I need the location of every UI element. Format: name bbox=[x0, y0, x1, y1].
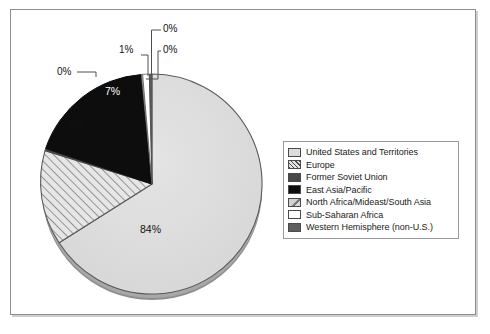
legend-item-sub-saharan-africa: Sub-Saharan Africa bbox=[288, 209, 453, 221]
legend-item-western-hemisphere: Western Hemisphere (non-U.S.) bbox=[288, 221, 453, 233]
east-asia-pacific-swatch-icon bbox=[288, 185, 301, 194]
leader-line-sub-saharan-africa bbox=[141, 55, 148, 76]
usa-swatch-icon bbox=[288, 148, 301, 157]
legend-label-east-asia-pacific: East Asia/Pacific bbox=[306, 185, 372, 195]
pie-label-sub-saharan-africa: 1% bbox=[119, 44, 133, 55]
pie-slices bbox=[41, 74, 263, 294]
leader-line-former-soviet-union bbox=[77, 72, 96, 77]
legend-label-former-soviet-union: Former Soviet Union bbox=[306, 172, 388, 182]
legend-item-east-asia-pacific: East Asia/Pacific bbox=[288, 184, 453, 196]
legend-label-sub-saharan-africa: Sub-Saharan Africa bbox=[306, 210, 383, 220]
legend-label-europe: Europe bbox=[306, 160, 335, 170]
leader-line-western-hemisphere bbox=[152, 30, 162, 76]
sub-saharan-africa-swatch-icon bbox=[288, 210, 301, 219]
pie-label-western-hemisphere: 0% bbox=[163, 23, 177, 34]
former-soviet-union-swatch-icon bbox=[288, 173, 301, 182]
legend-label-united-states: United States and Territories bbox=[306, 147, 418, 157]
legend-item-former-soviet-union: Former Soviet Union bbox=[288, 171, 453, 183]
europe-swatch-icon bbox=[288, 160, 301, 169]
legend-label-north-africa: North Africa/Mideast/South Asia bbox=[306, 197, 431, 207]
pie-label-united-states: 84% bbox=[140, 223, 161, 235]
legend-label-western-hemisphere: Western Hemisphere (non-U.S.) bbox=[306, 222, 433, 232]
pie-label-north-africa: 0% bbox=[163, 44, 177, 55]
legend-item-north-africa: North Africa/Mideast/South Asia bbox=[288, 196, 453, 208]
pie-label-east-asia-pacific: 7% bbox=[105, 85, 120, 97]
chart-legend: United States and Territories Europe For… bbox=[283, 141, 459, 239]
legend-item-united-states: United States and Territories bbox=[288, 146, 453, 158]
pie-label-europe: 8% bbox=[68, 119, 83, 131]
western-hemisphere-swatch-icon bbox=[288, 223, 301, 232]
pie-label-former-soviet-union: 0% bbox=[57, 66, 71, 77]
north-africa-swatch-icon bbox=[288, 198, 301, 207]
legend-item-europe: Europe bbox=[288, 159, 453, 171]
screenshot-root: 84% 8% 0% 7% 0% 1% 0% United States and … bbox=[0, 0, 490, 334]
